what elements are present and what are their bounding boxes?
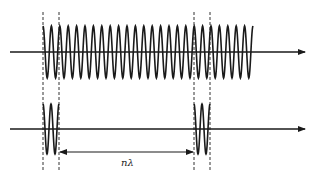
wave-diagram bbox=[0, 0, 312, 183]
n-lambda-label: nλ bbox=[121, 158, 134, 168]
